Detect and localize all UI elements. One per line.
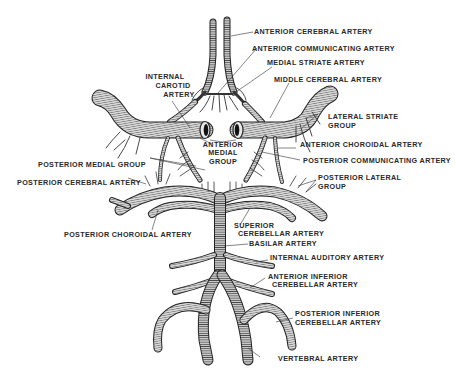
label-internal-auditory-artery: INTERNAL AUDITORY ARTERY [270,254,384,262]
label-anterior-communicating-artery: ANTERIOR COMMUNICATING ARTERY [252,45,395,53]
label-posterior-communicating-artery: POSTERIOR COMMUNICATING ARTERY [303,157,451,165]
label-middle-cerebral-artery: MIDDLE CEREBRAL ARTERY [274,76,382,84]
label-posterior-medial-group: POSTERIOR MEDIAL GROUP [38,161,146,169]
label-superior-cerebellar-artery-2: CEREBELLAR ARTERY [238,230,324,238]
label-anterior-choroidal-artery: ANTERIOR CHOROIDAL ARTERY [300,141,423,149]
label-medial-striate-artery: MEDIAL STRIATE ARTERY [267,59,365,67]
label-posterior-inferior-cerebellar-artery-2: CEREBELLAR ARTERY [295,319,381,327]
label-posterior-choroidal-artery: POSTERIOR CHOROIDAL ARTERY [64,231,192,239]
label-lateral-striate-group-1: LATERAL STRIATE [328,113,398,121]
label-posterior-inferior-cerebellar-artery-1: POSTERIOR INFERIOR [295,310,380,318]
label-basilar-artery: BASILAR ARTERY [249,240,317,248]
artery-illustration [0,0,455,376]
label-internal-carotid-artery-2: CAROTID [148,82,198,90]
label-anterior-medial-group-3: GROUP [200,158,246,166]
label-anterior-inferior-cerebellar-artery-2: CEREBELLAR ARTERY [272,281,358,289]
label-posterior-cerebral-artery: POSTERIOR CEREBRAL ARTERY [17,179,141,187]
label-internal-carotid-artery-1: INTERNAL [140,73,190,81]
label-internal-carotid-artery-3: ARTERY [154,91,204,99]
label-lateral-striate-group-2: GROUP [328,122,356,130]
circle-of-willis-diagram: ANTERIOR CEREBRAL ARTERY ANTERIOR COMMUN… [0,0,455,376]
label-anterior-cerebral-artery: ANTERIOR CEREBRAL ARTERY [254,28,373,36]
label-vertebral-artery: VERTEBRAL ARTERY [278,355,358,363]
label-posterior-lateral-group-1: POSTERIOR LATERAL [318,174,401,182]
middle-cerebral-arteries [100,94,330,139]
label-posterior-lateral-group-2: GROUP [318,183,346,191]
label-anterior-medial-group-2: MEDIAL [200,149,246,157]
